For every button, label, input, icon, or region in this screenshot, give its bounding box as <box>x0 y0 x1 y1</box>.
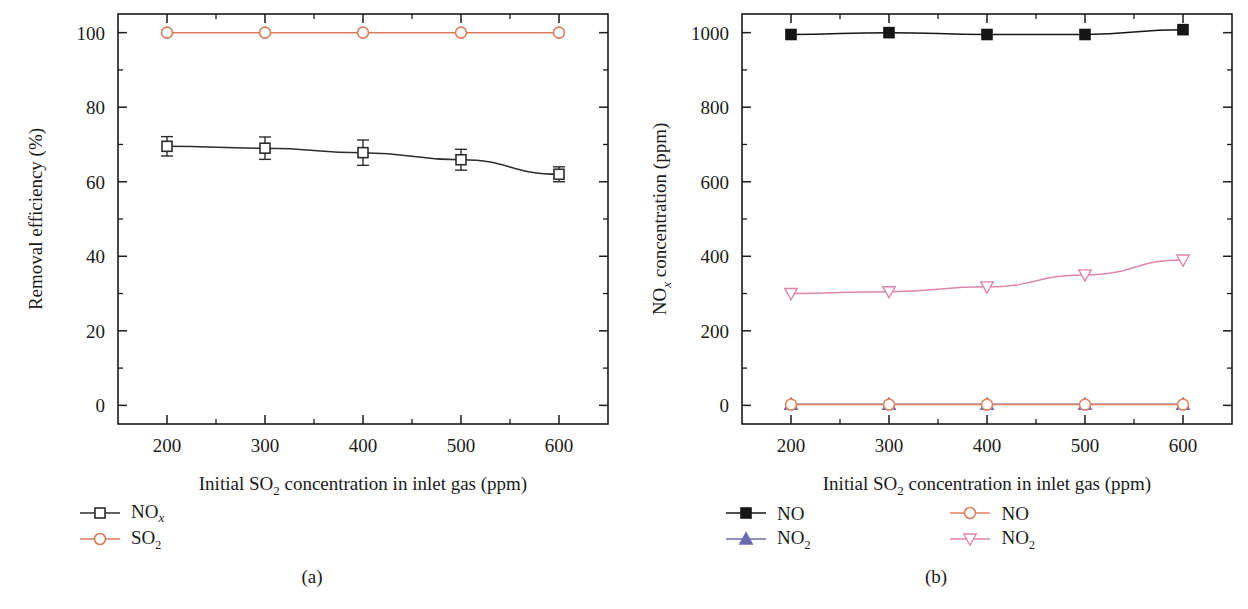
y-tick-label: 0 <box>720 395 730 416</box>
y-tick-label: 0 <box>96 395 106 416</box>
y-tick-label: 800 <box>701 97 730 118</box>
legend-marker-filled-square <box>724 503 768 523</box>
legend-item-label: NO2 <box>1001 528 1034 551</box>
legend-item: SO2 <box>78 526 164 552</box>
y-axis-title: NOx concentration (ppm) <box>649 123 674 316</box>
chart-b: 02004006008001000200300400500600Initial … <box>624 0 1248 540</box>
y-tick-label: 200 <box>701 321 730 342</box>
y-tick-label: 400 <box>701 246 730 267</box>
x-tick-label: 200 <box>777 435 806 456</box>
caption-panel-b: (b) <box>624 566 1248 588</box>
caption-panel-a: (a) <box>0 566 624 588</box>
panel-a: 020406080100200300400500600Initial SO2 c… <box>0 0 624 609</box>
x-tick-label: 400 <box>973 435 1002 456</box>
series-no-inlet- <box>786 25 1188 40</box>
legend-item-label: NO <box>1001 504 1028 523</box>
legend-marker-filled-triangle-up <box>724 529 768 549</box>
series-no-outlet- <box>786 399 1189 410</box>
x-tick-label: 500 <box>447 435 476 456</box>
legend-marker-open-circle <box>78 529 122 549</box>
panel-b: 02004006008001000200300400500600Initial … <box>624 0 1248 609</box>
legend-item-label: NOx <box>131 502 164 525</box>
figure-two-panel: 020406080100200300400500600Initial SO2 c… <box>0 0 1248 609</box>
x-tick-label: 600 <box>545 435 574 456</box>
legend-item: NO2 <box>948 526 1034 552</box>
legend-panel-a: NOxSO2 <box>78 500 164 552</box>
chart-a: 020406080100200300400500600Initial SO2 c… <box>0 0 624 540</box>
legend-marker-open-square <box>78 503 122 523</box>
x-tick-label: 600 <box>1169 435 1198 456</box>
x-tick-label: 300 <box>875 435 904 456</box>
series-so2 <box>162 27 565 38</box>
series-no2-outlet- <box>785 255 1190 300</box>
legend-marker-open-circle <box>948 503 992 523</box>
legend-item-label: NO <box>777 504 804 523</box>
legend-item: NOx <box>78 500 164 526</box>
legend-item-label: SO2 <box>131 528 161 551</box>
x-axis-title: Initial SO2 concentration in inlet gas (… <box>823 473 1151 498</box>
y-tick-label: 80 <box>86 97 105 118</box>
y-tick-label: 20 <box>86 321 105 342</box>
legend-marker-open-triangle-down <box>948 529 992 549</box>
x-tick-label: 400 <box>349 435 378 456</box>
y-tick-label: 40 <box>86 246 105 267</box>
legend-item: NO <box>724 500 810 526</box>
y-axis-title: Removal efficiency (%) <box>25 128 47 310</box>
series-nox <box>161 137 565 182</box>
y-tick-label: 600 <box>701 172 730 193</box>
legend-item: NO <box>948 500 1034 526</box>
y-tick-label: 1000 <box>691 23 729 44</box>
x-tick-label: 200 <box>153 435 182 456</box>
legend-item: NO2 <box>724 526 810 552</box>
legend-panel-b: NONO2NONO2 <box>724 500 1035 552</box>
legend-item-label: NO2 <box>777 528 810 551</box>
y-tick-label: 60 <box>86 172 105 193</box>
x-tick-label: 500 <box>1071 435 1100 456</box>
y-tick-label: 100 <box>77 23 106 44</box>
x-axis-title: Initial SO2 concentration in inlet gas (… <box>199 473 527 498</box>
x-tick-label: 300 <box>251 435 280 456</box>
